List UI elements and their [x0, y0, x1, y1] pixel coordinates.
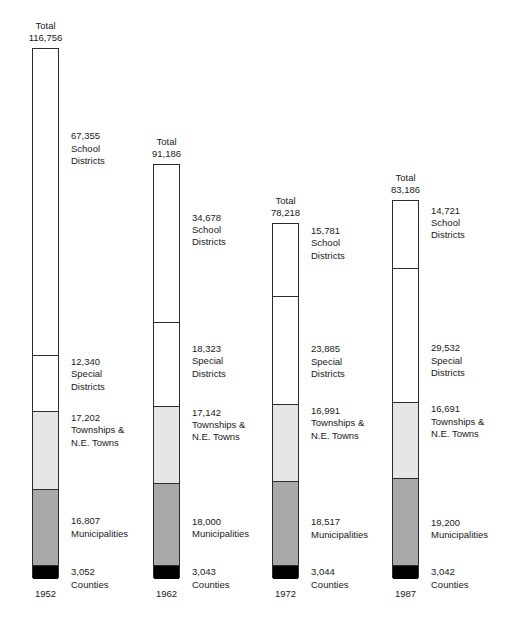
bar-segment — [33, 411, 58, 489]
segment-name-line1: Townships & — [311, 417, 364, 429]
bar-segment — [154, 565, 179, 579]
bar-segment — [154, 483, 179, 565]
segment-value: 15,781 — [311, 225, 345, 237]
segment-value: 29,532 — [431, 342, 465, 354]
segment-value: 67,355 — [71, 130, 105, 142]
segment-value: 3,044 — [311, 566, 349, 578]
bar-total-caption: Total116,756 — [8, 20, 83, 44]
segment-value: 3,043 — [192, 566, 230, 578]
bar-segment — [273, 565, 298, 579]
axis-year-label: 1952 — [12, 588, 79, 600]
bar-segment — [393, 201, 418, 268]
bar-total-caption: Total91,186 — [129, 136, 204, 160]
bar-segment — [273, 404, 298, 481]
axis-year-label: 1972 — [252, 588, 319, 600]
segment-value: 34,678 — [192, 212, 226, 224]
segment-value: 18,000 — [192, 516, 249, 528]
segment-name-line1: Municipalities — [431, 529, 488, 541]
segment-name-line1: Townships & — [431, 416, 484, 428]
segment-name-line2: N.E. Towns — [71, 437, 124, 449]
segment-name-line1: School — [311, 237, 345, 249]
bar-segment-label: 16,807Municipalities — [71, 515, 128, 540]
segment-name-line1: Municipalities — [71, 528, 128, 540]
segment-value: 18,323 — [192, 343, 226, 355]
bar-segment — [33, 489, 58, 565]
bar-segment-label: 18,323SpecialDistricts — [192, 343, 226, 380]
segment-value: 17,142 — [192, 407, 245, 419]
bar-segment-label: 17,142Townships &N.E. Towns — [192, 407, 245, 444]
bar-total-value: 78,218 — [248, 207, 323, 219]
segment-name-line2: Districts — [71, 381, 105, 393]
bar-stack-1962 — [153, 164, 180, 578]
bar-segment-label: 34,678SchoolDistricts — [192, 212, 226, 249]
segment-name-line1: Municipalities — [192, 528, 249, 540]
bar-segment-label: 15,781SchoolDistricts — [311, 225, 345, 262]
bar-segment — [393, 565, 418, 579]
segment-name-line1: Townships & — [192, 419, 245, 431]
bar-total-value: 116,756 — [8, 32, 83, 44]
segment-value: 18,517 — [311, 516, 368, 528]
bar-total-value: 83,186 — [368, 184, 443, 196]
segment-value: 12,340 — [71, 356, 105, 368]
bar-segment — [154, 406, 179, 484]
bar-total-word: Total — [368, 172, 443, 184]
bar-segment — [33, 355, 58, 411]
segment-name-line2: Districts — [431, 367, 465, 379]
segment-value: 16,691 — [431, 403, 484, 415]
bar-segment-label: 17,202Townships &N.E. Towns — [71, 412, 124, 449]
bar-segment-label: 16,691Townships &N.E. Towns — [431, 403, 484, 440]
bar-segment-label: 18,517Municipalities — [311, 516, 368, 541]
segment-name-line1: Special — [192, 355, 226, 367]
segment-value: 3,042 — [431, 566, 469, 578]
segment-value: 16,807 — [71, 515, 128, 527]
bar-total-caption: Total78,218 — [248, 195, 323, 219]
stacked-bar-chart: Total116,75667,355SchoolDistricts12,340S… — [0, 0, 515, 619]
segment-name-line2: N.E. Towns — [192, 431, 245, 443]
bar-total-value: 91,186 — [129, 148, 204, 160]
segment-name-line1: Townships & — [71, 424, 124, 436]
segment-name-line1: School — [71, 143, 105, 155]
segment-name-line2: Districts — [311, 368, 345, 380]
bar-segment-label: 19,200Municipalities — [431, 517, 488, 542]
axis-year-label: 1962 — [133, 588, 200, 600]
bar-total-word: Total — [248, 195, 323, 207]
segment-name-line1: School — [192, 224, 226, 236]
bar-segment — [393, 268, 418, 402]
bar-segment-label: 23,885SpecialDistricts — [311, 343, 345, 380]
bar-segment-label: 29,532SpecialDistricts — [431, 342, 465, 379]
bar-segment — [154, 322, 179, 405]
segment-name-line2: Districts — [311, 250, 345, 262]
bar-total-word: Total — [129, 136, 204, 148]
segment-name-line2: Districts — [192, 368, 226, 380]
segment-value: 23,885 — [311, 343, 345, 355]
bar-segment — [33, 565, 58, 579]
segment-name-line1: Special — [311, 356, 345, 368]
bar-segment — [33, 49, 58, 355]
segment-name-line2: N.E. Towns — [311, 430, 364, 442]
segment-name-line1: School — [431, 217, 465, 229]
bar-segment-label: 12,340SpecialDistricts — [71, 356, 105, 393]
segment-value: 17,202 — [71, 412, 124, 424]
bar-segment — [393, 402, 418, 478]
bar-segment — [273, 481, 298, 565]
segment-name-line2: Districts — [192, 236, 226, 248]
segment-name-line2: Districts — [431, 229, 465, 241]
segment-name-line1: Municipalities — [311, 529, 368, 541]
bar-segment — [273, 296, 298, 404]
segment-name-line2: Districts — [71, 155, 105, 167]
bar-segment — [154, 165, 179, 322]
bar-segment-label: 16,991Townships &N.E. Towns — [311, 405, 364, 442]
segment-name-line1: Special — [71, 368, 105, 380]
bar-stack-1987 — [392, 200, 419, 578]
segment-value: 3,052 — [71, 566, 109, 578]
bar-stack-1952 — [32, 48, 59, 578]
segment-name-line1: Special — [431, 355, 465, 367]
bar-total-caption: Total83,186 — [368, 172, 443, 196]
segment-value: 19,200 — [431, 517, 488, 529]
bar-segment — [273, 224, 298, 296]
segment-name-line2: N.E. Towns — [431, 428, 484, 440]
bar-segment-label: 14,721SchoolDistricts — [431, 205, 465, 242]
segment-value: 16,991 — [311, 405, 364, 417]
bar-segment-label: 18,000Municipalities — [192, 516, 249, 541]
bar-segment — [393, 478, 418, 565]
